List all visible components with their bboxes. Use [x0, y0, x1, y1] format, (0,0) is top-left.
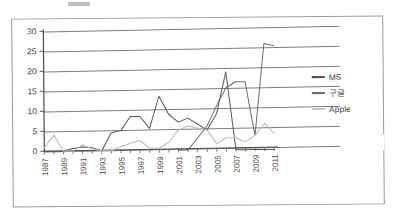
gridline-20 — [44, 66, 340, 72]
x-axis-tick-label: 2007 — [233, 154, 242, 172]
gridline-30 — [43, 26, 339, 32]
x-axis-tick-label: 2003 — [194, 155, 203, 173]
x-axis-tick-label: 1999 — [156, 156, 165, 174]
series-line-구글 — [178, 43, 275, 150]
gridline-25 — [43, 46, 339, 52]
x-axis-tick-label: 1989 — [60, 157, 69, 175]
x-axis-tick-label: 2001 — [175, 155, 184, 173]
y-axis-tick-label: 15 — [27, 86, 37, 96]
scan-artifact — [68, 2, 90, 6]
y-axis-tick-label: 0 — [33, 146, 38, 156]
x-axis-tick-label: 1993 — [98, 157, 107, 175]
y-axis-tick-label: 5 — [32, 126, 37, 136]
x-axis-tick-label: 1995 — [118, 156, 127, 174]
y-axis-tick-label: 20 — [27, 66, 37, 76]
chart-canvas: 0510152025301987198919911993199519971999… — [15, 21, 382, 204]
y-axis-tick-label: 25 — [27, 46, 37, 56]
x-axis-tick-label: 2005 — [213, 155, 222, 173]
legend-label-구글: 구글 — [329, 88, 345, 98]
line-chart: 0510152025301987198919911993199519971999… — [15, 21, 382, 204]
x-axis-tick-label: 2009 — [252, 154, 261, 172]
series-line-Apple — [44, 123, 274, 151]
gridline-15 — [44, 86, 340, 92]
gridline-10 — [44, 106, 340, 112]
x-axis-tick-label: 1987 — [41, 158, 50, 176]
y-axis-tick-label: 10 — [27, 106, 37, 116]
legend-label-Apple: Apple — [329, 104, 351, 114]
x-axis-tick-label: 1991 — [79, 157, 88, 175]
x-axis-tick-label: 2011 — [271, 154, 280, 172]
x-axis-tick-label: 1997 — [137, 156, 146, 174]
y-axis-line — [43, 29, 44, 152]
legend-label-MS: MS — [329, 72, 342, 82]
y-axis-tick-label: 30 — [27, 26, 37, 36]
